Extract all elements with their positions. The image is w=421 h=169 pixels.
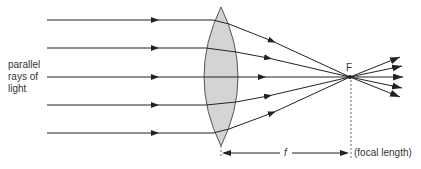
focal-point-label: F <box>346 62 352 74</box>
rays-label-line1: parallel <box>8 59 40 71</box>
rays-label-line2: rays of <box>8 71 40 83</box>
focal-point <box>348 75 352 79</box>
converging-rays <box>229 24 350 129</box>
focal-symbol: f <box>284 147 287 159</box>
rays-label-line3: light <box>8 83 40 95</box>
incoming-rays <box>47 20 213 133</box>
lens-diagram <box>0 0 421 169</box>
rays-label: parallel rays of light <box>8 59 40 95</box>
diverging-rays <box>350 57 403 97</box>
focal-length-label: (focal length) <box>354 147 412 159</box>
